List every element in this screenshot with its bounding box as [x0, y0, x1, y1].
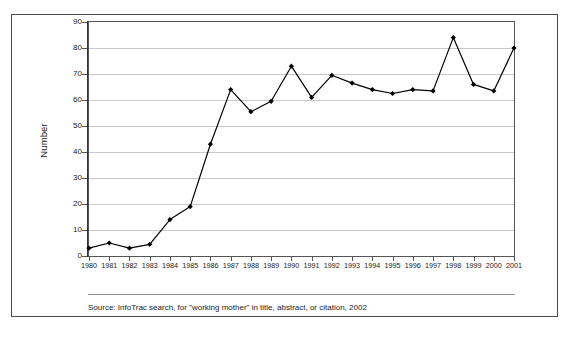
data-point-marker: [491, 88, 496, 93]
data-point-marker: [349, 81, 354, 86]
y-tickmark: [82, 230, 87, 231]
data-point-marker: [127, 246, 132, 251]
y-tick-label: 0: [56, 252, 82, 260]
y-tickmark: [82, 126, 87, 127]
y-tick-label: 30: [56, 174, 82, 182]
source-note: Source: InfoTrac search, for "working mo…: [88, 303, 538, 313]
y-tick-label: 40: [56, 148, 82, 156]
data-point-marker: [511, 45, 516, 50]
x-tick-label: 2001: [499, 262, 529, 269]
line-chart: Number 0102030405060708090 1980198119821…: [12, 15, 559, 273]
series-polyline: [89, 38, 514, 249]
y-tick-label: 90: [56, 18, 82, 26]
y-axis-title: Number: [38, 96, 49, 186]
figure-frame: Number 0102030405060708090 1980198119821…: [11, 14, 558, 317]
y-tickmark: [82, 100, 87, 101]
y-tick-label: 80: [56, 44, 82, 52]
y-tickmark: [82, 204, 87, 205]
data-point-marker: [410, 87, 415, 92]
data-point-marker: [86, 246, 91, 251]
y-tickmark: [82, 256, 87, 257]
series-line-number: [89, 22, 514, 256]
y-tick-label: 20: [56, 200, 82, 208]
y-tickmark: [82, 22, 87, 23]
y-tickmark: [82, 48, 87, 49]
data-point-marker: [471, 82, 476, 87]
data-point-marker: [269, 99, 274, 104]
data-point-marker: [107, 240, 112, 245]
data-point-marker: [390, 91, 395, 96]
y-tickmark: [82, 178, 87, 179]
y-tick-label: 60: [56, 96, 82, 104]
y-tick-label: 70: [56, 70, 82, 78]
y-tick-label: 50: [56, 122, 82, 130]
source-divider: [88, 294, 515, 295]
data-point-marker: [451, 35, 456, 40]
y-tickmark: [82, 152, 87, 153]
x-axis-tick-labels: 1980198119821983198419851986198719881989…: [88, 257, 515, 273]
y-tickmark: [82, 74, 87, 75]
data-point-marker: [208, 142, 213, 147]
y-tick-label: 10: [56, 226, 82, 234]
y-axis-tick-labels: 0102030405060708090: [56, 21, 82, 263]
data-point-marker: [430, 88, 435, 93]
plot-area: [88, 21, 515, 257]
data-point-marker: [370, 87, 375, 92]
